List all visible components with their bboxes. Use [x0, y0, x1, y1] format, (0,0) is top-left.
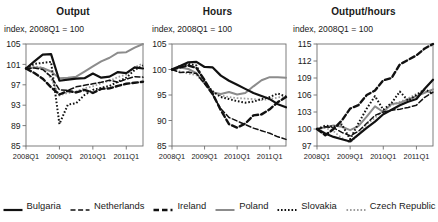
plot-area-output: 858993971011052008Q12009Q12010Q12011Q1 [0, 38, 146, 178]
y-tick-label-97: 97 [302, 141, 312, 151]
legend-item-netherlands[interactable]: Netherlands [70, 201, 145, 211]
y-tick-label-115: 115 [298, 39, 312, 49]
chart-svg-output: 858993971011052008Q12009Q12010Q12011Q1 [0, 38, 146, 178]
y-tick-label-105: 105 [152, 39, 167, 49]
legend-label-netherlands: Netherlands [94, 201, 145, 211]
y-tick-label-103: 103 [297, 107, 312, 117]
figure-root: Output index, 2008Q1 = 100 8589939710110… [0, 0, 438, 222]
panel-subtitle-output: index, 2008Q1 = 100 [0, 18, 146, 34]
chart-svg-hours: 8590951001052008Q12009Q12010Q12011Q1 [146, 38, 289, 178]
y-tick-label-100: 100 [297, 124, 312, 134]
x-tick-label-2008Q1: 2008Q1 [304, 152, 330, 161]
chart-legend: BulgariaNetherlandsIrelandPolandSlovakia… [0, 196, 438, 216]
plot-area-output-hours: 971001031061091121152008Q12009Q12010Q120… [289, 38, 438, 178]
legend-item-czech-republic[interactable]: Czech Republic [346, 201, 436, 211]
legend-swatch-bulgaria [3, 201, 23, 211]
chart-panel-hours: Hours index, 2008Q1 = 100 85909510010520… [146, 0, 289, 190]
y-tick-label-97: 97 [11, 80, 21, 90]
y-tick-label-106: 106 [297, 90, 312, 100]
panel-subtitle-hours: index, 2008Q1 = 100 [146, 18, 289, 34]
panel-subtitle-output-hours: index, 2008Q1 = 100 [289, 18, 438, 34]
x-tick-label-2010Q1: 2010Q1 [370, 152, 396, 161]
legend-label-poland: Poland [239, 201, 268, 211]
y-tick-label-95: 95 [157, 90, 167, 100]
x-tick-label-2011Q1: 2011Q1 [404, 152, 430, 161]
y-tick-label-85: 85 [11, 141, 21, 151]
x-tick-label-2009Q1: 2009Q1 [46, 152, 72, 161]
legend-swatch-poland [215, 201, 235, 211]
x-tick-label-2008Q1: 2008Q1 [13, 152, 39, 161]
legend-swatch-czech-republic [346, 201, 366, 211]
x-tick-label-2011Q1: 2011Q1 [257, 152, 283, 161]
legend-item-poland[interactable]: Poland [215, 201, 268, 211]
y-tick-label-109: 109 [297, 73, 312, 83]
plot-area-hours: 8590951001052008Q12009Q12010Q12011Q1 [146, 38, 289, 178]
legend-label-bulgaria: Bulgaria [27, 201, 61, 211]
x-tick-label-2011Q1: 2011Q1 [113, 152, 139, 161]
panel-title-output-hours: Output/hours [289, 0, 438, 18]
legend-swatch-ireland [153, 201, 173, 211]
series-line-czech-republic [172, 70, 286, 101]
legend-item-ireland[interactable]: Ireland [153, 201, 206, 211]
chart-panel-output: Output index, 2008Q1 = 100 8589939710110… [0, 0, 146, 190]
legend-label-slovakia: Slovakia [301, 201, 336, 211]
panel-title-hours: Hours [146, 0, 289, 18]
plot-frame [172, 44, 286, 146]
legend-label-czech-republic: Czech Republic [370, 201, 436, 211]
y-tick-label-93: 93 [11, 100, 21, 110]
chart-svg-output-hours: 971001031061091121152008Q12009Q12010Q120… [289, 38, 438, 178]
panel-title-output: Output [0, 0, 146, 18]
y-tick-label-112: 112 [298, 56, 312, 66]
y-tick-label-85: 85 [157, 141, 167, 151]
y-tick-label-89: 89 [11, 121, 21, 131]
legend-swatch-slovakia [277, 201, 297, 211]
x-tick-label-2008Q1: 2008Q1 [159, 152, 185, 161]
x-tick-label-2010Q1: 2010Q1 [224, 152, 250, 161]
y-tick-label-100: 100 [152, 65, 167, 75]
y-tick-label-90: 90 [157, 116, 167, 126]
y-tick-label-101: 101 [6, 60, 21, 70]
y-tick-label-105: 105 [6, 39, 21, 49]
legend-label-ireland: Ireland [177, 201, 206, 211]
x-tick-label-2009Q1: 2009Q1 [191, 152, 217, 161]
chart-panel-output-hours: Output/hours index, 2008Q1 = 100 9710010… [289, 0, 438, 190]
legend-item-bulgaria[interactable]: Bulgaria [3, 201, 61, 211]
legend-item-slovakia[interactable]: Slovakia [277, 201, 336, 211]
legend-swatch-netherlands [70, 201, 90, 211]
x-tick-label-2009Q1: 2009Q1 [337, 152, 363, 161]
x-tick-label-2010Q1: 2010Q1 [80, 152, 106, 161]
